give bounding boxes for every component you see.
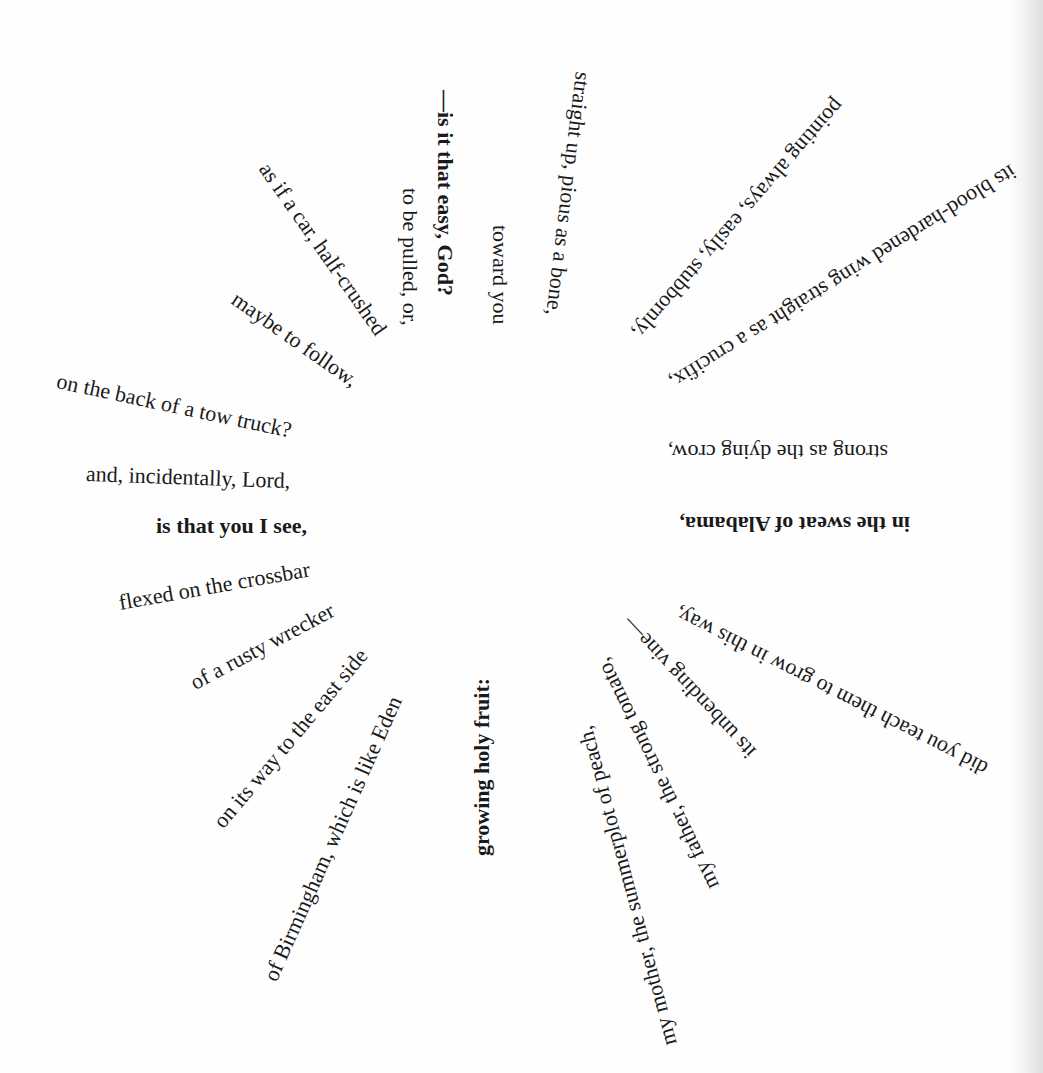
- poem-line: in the sweat of Alabama,: [680, 513, 910, 535]
- poem-line: strong as the dying crow,: [668, 441, 888, 463]
- poem-line: to be pulled, or,: [399, 188, 421, 326]
- poem-line: on the back of a tow truck?: [55, 370, 294, 441]
- poem-line: maybe to follow,: [228, 288, 362, 391]
- page-edge-shadow: [1009, 0, 1043, 1073]
- poem-line: —is it that easy, God?: [434, 90, 456, 296]
- poem-line: toward you: [489, 225, 511, 325]
- poem-page: —is it that easy, God? toward you to be …: [0, 0, 1043, 1073]
- poem-line: of a rusty wrecker: [187, 599, 338, 693]
- poem-line: is that you I see,: [156, 515, 307, 537]
- poem-line: and, incidentally, Lord,: [86, 463, 291, 492]
- poem-line: its blood-hardened wing straight as a cr…: [666, 161, 1020, 394]
- poem-line: growing holy fruit:: [471, 678, 493, 856]
- poem-line: straight up, pious as a bone,: [542, 71, 594, 317]
- poem-line: did you teach them to grow in this way,: [671, 602, 991, 779]
- poem-line: flexed on the crossbar: [117, 559, 312, 614]
